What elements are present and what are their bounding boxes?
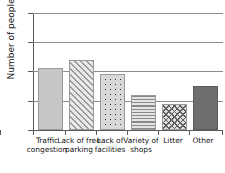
y-axis-title: Number of people (6, 0, 16, 91)
bar-traffic-congestion[interactable] (38, 68, 63, 130)
x-tick-mark-1 (0, 130, 1, 135)
bar-lack-of-facilities[interactable] (100, 74, 125, 130)
plot-area (33, 13, 223, 130)
bar-chart: Number of people 40 30 20 10 0 Traffic c… (0, 0, 225, 173)
x-tick-mark-6 (222, 130, 223, 135)
bar-litter[interactable] (162, 104, 187, 130)
bar-variety-of-shops[interactable] (131, 95, 156, 130)
x-tick-mark-4 (158, 130, 159, 135)
x-tick-mark-5 (189, 130, 190, 135)
gridline-30 (33, 42, 223, 43)
bar-lack-of-free-parking[interactable] (69, 60, 94, 130)
x-tick-mark-2 (96, 130, 97, 135)
x-tick-mark-1b (65, 130, 66, 135)
x-tick-mark-3 (127, 130, 128, 135)
x-tick-mark-0 (33, 130, 34, 135)
gridline-40 (33, 13, 223, 14)
chart-title (0, 0, 225, 2)
x-axis-label-other: Other (184, 137, 222, 146)
x-axis-line (33, 130, 223, 131)
bar-other[interactable] (193, 86, 218, 130)
